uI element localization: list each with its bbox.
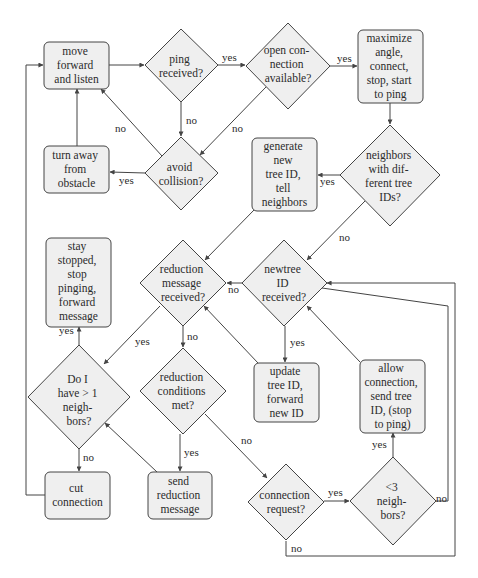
label-newtree-no: no	[228, 283, 240, 295]
node-generate-tree-id: generate new tree ID, tell neighbors	[252, 138, 317, 211]
node-allow-connection: allow connection, send tree ID, (stop to…	[360, 360, 425, 433]
label-request-yes: yes	[328, 486, 343, 498]
node-maximize-angle: maximize angle, connect, stop, start to …	[358, 30, 423, 103]
label-open-yes: yes	[337, 52, 352, 64]
label-more-no: no	[83, 451, 95, 463]
node-move-forward: move forward and listen	[44, 42, 109, 89]
label-avoid-yes: yes	[119, 174, 134, 186]
label-avoid-no: no	[115, 122, 127, 134]
edge-avoid-yes	[110, 172, 145, 173]
label-three-no: no	[436, 492, 448, 504]
svg-text:generate new tree: generate new tree ID, tell neighbors	[262, 140, 308, 209]
node-cut-connection: cut connection	[45, 472, 110, 519]
label-reduction-yes: yes	[135, 335, 150, 347]
edge-allow-to-newtree	[307, 306, 360, 362]
node-more-neighbors: Do I have > 1 neigh- bors?	[28, 345, 130, 449]
node-update-tree-id: update tree ID, forward new ID	[254, 363, 319, 422]
label-open-no: no	[232, 122, 244, 134]
node-less-than-three-neighbors: <3 neigh- bors?	[350, 457, 436, 545]
node-reduction-conditions: reduction conditions met?	[140, 348, 226, 434]
label-ping-no: no	[186, 114, 198, 126]
node-open-connection: open con- nection available?	[246, 23, 330, 109]
svg-text:connection request?: connection request?	[259, 489, 312, 516]
node-connection-request: connection request?	[248, 464, 324, 540]
label-conditions-no: no	[241, 434, 253, 446]
edge-conditions-no	[205, 414, 267, 478]
edge-send-to-more	[105, 423, 157, 472]
label-reduction-no: no	[187, 330, 199, 342]
label-neighbors-no: no	[339, 231, 351, 243]
label-newtree-yes: yes	[290, 336, 305, 348]
label-three-yes: yes	[372, 438, 387, 450]
edge-generate-to-reduction	[205, 209, 255, 260]
node-turn-away: turn away from obstacle	[44, 146, 109, 193]
node-stay-stopped: stay stopped, stop pinging, forward mess…	[46, 238, 111, 327]
node-ping-received: ping received?	[145, 29, 218, 102]
label-request-no: no	[291, 542, 303, 554]
label-neighbors-yes: yes	[320, 175, 335, 187]
label-ping-yes: yes	[222, 51, 237, 63]
svg-text:reduction message: reduction message received?	[160, 263, 206, 303]
edge-reduction-yes	[104, 306, 160, 364]
edge-update-to-reduction	[204, 306, 258, 363]
node-send-reduction: send reduction message	[148, 472, 212, 519]
svg-text:open con- nection: open con- nection available?	[264, 44, 313, 84]
edge-cut-to-move	[26, 65, 45, 495]
label-conditions-yes: yes	[184, 446, 199, 458]
flowchart: yes yes no no no yes yes no no yes yes n…	[0, 0, 478, 578]
edge-avoid-no	[101, 89, 162, 156]
